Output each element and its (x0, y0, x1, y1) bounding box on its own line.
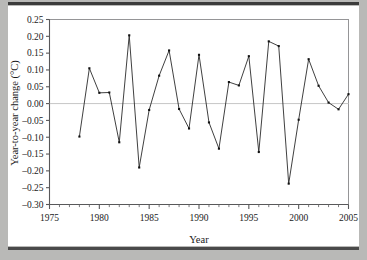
data-point (168, 49, 170, 51)
x-tick-label: 2000 (289, 213, 308, 223)
line-chart: 1975198019851990199520002005 0.250.200.1… (0, 0, 367, 260)
x-tick-label: 1985 (140, 213, 159, 223)
data-point (178, 108, 180, 110)
data-point (258, 151, 260, 153)
x-tick-label: 1980 (90, 213, 109, 223)
y-tick-label: –0.30 (21, 200, 44, 210)
y-tick-label: –0.20 (21, 166, 44, 176)
data-point (88, 67, 90, 69)
data-point (208, 121, 210, 123)
data-point (138, 166, 140, 168)
data-point (118, 141, 120, 143)
y-axis-tick-labels: 0.250.200.150.100.050.00–0.05–0.10–0.15–… (21, 15, 44, 210)
x-axis-title: Year (189, 234, 209, 245)
y-tick-label: –0.15 (21, 149, 44, 159)
data-point (248, 55, 250, 57)
y-tick-label: 0.00 (27, 99, 44, 109)
y-tick-label: 0.25 (27, 15, 44, 25)
data-point (108, 91, 110, 93)
data-point (228, 81, 230, 83)
data-point (318, 85, 320, 87)
x-tick-label: 1975 (40, 213, 59, 223)
data-point (278, 45, 280, 47)
data-point (98, 92, 100, 94)
data-point (198, 54, 200, 56)
data-point (158, 75, 160, 77)
y-tick-label: 0.05 (27, 82, 44, 92)
x-tick-label: 2005 (339, 213, 358, 223)
data-point (218, 148, 220, 150)
data-point (308, 58, 310, 60)
data-point (328, 102, 330, 104)
x-tick-label: 1990 (190, 213, 209, 223)
plot-frame (50, 20, 349, 205)
data-point (288, 183, 290, 185)
data-point (238, 84, 240, 86)
data-point (188, 127, 190, 129)
y-axis-title: Year-to-year change (°C) (9, 60, 21, 166)
x-axis-tick-labels: 1975198019851990199520002005 (40, 213, 358, 223)
figure-root: 1975198019851990199520002005 0.250.200.1… (0, 0, 367, 260)
y-tick-label: –0.05 (21, 116, 44, 126)
data-point (128, 34, 130, 36)
y-tick-label: –0.10 (21, 133, 44, 143)
data-point (78, 136, 80, 138)
y-tick-label: –0.25 (21, 183, 44, 193)
data-point (298, 119, 300, 121)
data-point (347, 93, 349, 95)
x-axis-ticks (50, 205, 349, 210)
data-point (337, 108, 339, 110)
data-point (148, 109, 150, 111)
y-tick-label: 0.20 (27, 32, 44, 42)
data-point (268, 40, 270, 42)
x-tick-label: 1995 (239, 213, 258, 223)
y-tick-label: 0.15 (27, 48, 44, 58)
y-tick-label: 0.10 (27, 65, 44, 75)
